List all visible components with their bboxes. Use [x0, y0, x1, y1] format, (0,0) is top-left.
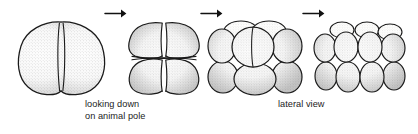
- caption-animal-pole-line1: looking down: [85, 99, 145, 111]
- caption-animal-pole: looking down on animal pole: [85, 99, 145, 122]
- caption-lateral-view: lateral view: [278, 99, 325, 111]
- stage-2-cell: [14, 19, 110, 97]
- cleavage-stages-figure: looking down on animal pole lateral view: [0, 0, 418, 134]
- stage-8-cell: [207, 19, 305, 97]
- right-arrow-icon: [302, 6, 326, 20]
- right-arrow-icon: [200, 6, 224, 20]
- stage-4-cell: [126, 20, 202, 96]
- caption-lateral-view-line1: lateral view: [278, 99, 325, 111]
- right-arrow-icon: [104, 6, 128, 20]
- stage-16-cell: [312, 20, 412, 96]
- arrow-1: [104, 6, 128, 24]
- caption-animal-pole-line2: on animal pole: [85, 111, 145, 123]
